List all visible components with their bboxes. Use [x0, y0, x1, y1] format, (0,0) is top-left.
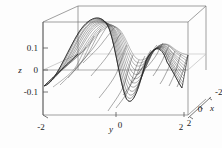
x-tick-mark-0: [209, 98, 212, 100]
y-tick-mark-0: [43, 115, 48, 118]
mesh-row-front-3: [44, 18, 182, 101]
plot-canvas: 0.1 0 -0.1 z: [0, 0, 222, 148]
x-axis-label: x: [209, 103, 214, 113]
z-axis: 0.1 0 -0.1 z: [17, 22, 48, 115]
z-tick-label-1: 0: [34, 65, 39, 75]
mesh-row-front-2: [46, 19, 183, 99]
y-axis-label: y: [108, 124, 113, 134]
surface-mesh: [44, 18, 188, 111]
z-tick-label-2: -0.1: [24, 87, 38, 97]
x-tick-label-1: 0: [198, 104, 203, 114]
z-axis-label: z: [17, 65, 22, 75]
x-tick-label-0: -2: [215, 87, 222, 97]
x-tick-label-2: 2: [187, 118, 192, 128]
y-tick-label-2: 2: [179, 122, 184, 132]
x-axis: -2 0 2 x: [187, 87, 222, 128]
mesh-col-9: [116, 60, 139, 108]
y-tick-label-1: 0: [118, 120, 123, 130]
box-top-face: [43, 6, 206, 22]
surface-front-silhouette: [44, 18, 182, 101]
surface-plot-figure: 0.1 0 -0.1 z: [0, 0, 222, 148]
zero-plane-right: [188, 54, 206, 70]
y-tick-label-0: -2: [37, 122, 45, 132]
z-tick-label-0: 0.1: [27, 43, 38, 53]
mesh-col-15: [160, 51, 175, 84]
